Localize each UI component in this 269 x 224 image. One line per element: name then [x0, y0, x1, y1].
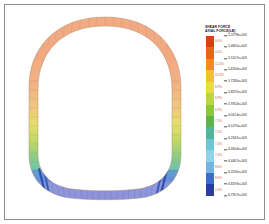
legend-percent-label: 7.4%	[215, 154, 222, 157]
plot-area	[5, 5, 205, 219]
legend-value-label: -6.5530e+003	[224, 171, 247, 174]
legend-percent-label: 0.0%	[215, 40, 222, 43]
legend-percent-label: 10.3%	[215, 74, 224, 77]
legend-swatch	[206, 93, 214, 104]
legend-value-label: -5.8291e+003	[224, 91, 247, 94]
axial-force-ring-contour	[5, 5, 205, 219]
legend-percent-label: 7.5%	[215, 131, 222, 134]
legend-value-label: -6.0414e+003	[224, 114, 247, 117]
figure-frame: SHEAR FORCE AXIAL FORCE(LB) 0.0%0.0%12.0…	[4, 4, 265, 220]
legend-percent-label: 2.0%	[215, 189, 222, 192]
legend-swatch	[206, 116, 214, 127]
legend-value-label: -5.6160e+003	[224, 69, 247, 72]
legend-swatch	[206, 184, 214, 195]
legend: SHEAR FORCE AXIAL FORCE(LB) 0.0%0.0%12.0…	[204, 25, 266, 205]
legend-value-label: -6.1470e+003	[224, 126, 247, 129]
legend-value-label: -5.4661e+003	[224, 46, 247, 49]
legend-swatch	[206, 82, 214, 93]
legend-percent-label: 12.0%	[215, 63, 224, 66]
legend-value-label: -6.7357e+003	[224, 194, 247, 197]
legend-value-label: -6.3404e+003	[224, 149, 247, 152]
legend-swatch	[206, 47, 214, 58]
legend-swatch	[206, 150, 214, 161]
legend-swatch	[206, 59, 214, 70]
legend-value-label: -5.1978e+003	[224, 34, 247, 37]
legend-percent-label: 7.5%	[215, 120, 222, 123]
legend-percent-label: 6.9%	[215, 86, 222, 89]
legend-color-bar	[206, 36, 214, 196]
legend-percent-label: 6.9%	[215, 109, 222, 112]
legend-swatch	[206, 139, 214, 150]
screenshot-root: SHEAR FORCE AXIAL FORCE(LB) 0.0%0.0%12.0…	[0, 0, 269, 224]
legend-percent-label: 8.6%	[215, 177, 222, 180]
legend-value-labels: -5.1978e+003-5.4661e+003-5.5107e+003-5.6…	[224, 36, 266, 196]
legend-percent-label: 7.4%	[215, 143, 222, 146]
legend-percent-label: 0.0%	[215, 51, 222, 54]
legend-value-label: -6.4467e+003	[224, 160, 247, 163]
legend-percent-label: 6.9%	[215, 97, 222, 100]
ring-contour-fill	[5, 5, 205, 219]
legend-swatch	[206, 162, 214, 173]
legend-swatch	[206, 173, 214, 184]
legend-swatch	[206, 70, 214, 81]
legend-value-label: -6.2342e+003	[224, 137, 247, 140]
legend-value-label: -6.6593e+003	[224, 183, 247, 186]
legend-value-label: -5.7280e+003	[224, 80, 247, 83]
legend-percent-label: 8.6%	[215, 166, 222, 169]
legend-value-label: -5.5107e+003	[224, 57, 247, 60]
legend-value-label: -5.9354e+003	[224, 103, 247, 106]
legend-swatch	[206, 36, 214, 47]
legend-swatch	[206, 127, 214, 138]
ring-inner-outline	[38, 26, 172, 191]
legend-swatch	[206, 105, 214, 116]
